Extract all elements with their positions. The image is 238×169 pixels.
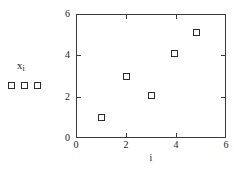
x-tick-bottom: [126, 133, 127, 138]
legend-marker-square: [34, 82, 41, 89]
x-tick-label: 2: [116, 140, 136, 150]
data-point: [123, 73, 130, 80]
y-tick-label: 0: [56, 133, 70, 143]
legend-marker-square: [21, 82, 28, 89]
legend-label: xi: [17, 60, 25, 72]
data-point: [171, 50, 178, 57]
x-tick-top: [126, 14, 127, 19]
legend-label-base: x: [17, 59, 23, 71]
legend-markers: [8, 80, 54, 94]
legend-marker-square: [8, 82, 15, 89]
x-tick-label: 4: [166, 140, 186, 150]
y-tick-label: 6: [56, 9, 70, 19]
legend-label-subscript: i: [23, 64, 25, 73]
data-point: [193, 29, 200, 36]
data-point: [148, 92, 155, 99]
y-tick-right: [221, 55, 226, 56]
plot-area: [76, 14, 226, 138]
y-tick-right: [221, 97, 226, 98]
x-axis-label: i: [76, 153, 226, 163]
x-tick-top: [176, 14, 177, 19]
y-tick-left: [76, 55, 81, 56]
y-tick-label: 4: [56, 50, 70, 60]
y-tick-left: [76, 97, 81, 98]
legend: xi: [8, 60, 54, 102]
scatter-plot-figure: xi 0246 0246 i: [0, 0, 238, 169]
x-tick-bottom: [176, 133, 177, 138]
data-point: [98, 114, 105, 121]
x-tick-label: 6: [216, 140, 236, 150]
y-tick-label: 2: [56, 92, 70, 102]
